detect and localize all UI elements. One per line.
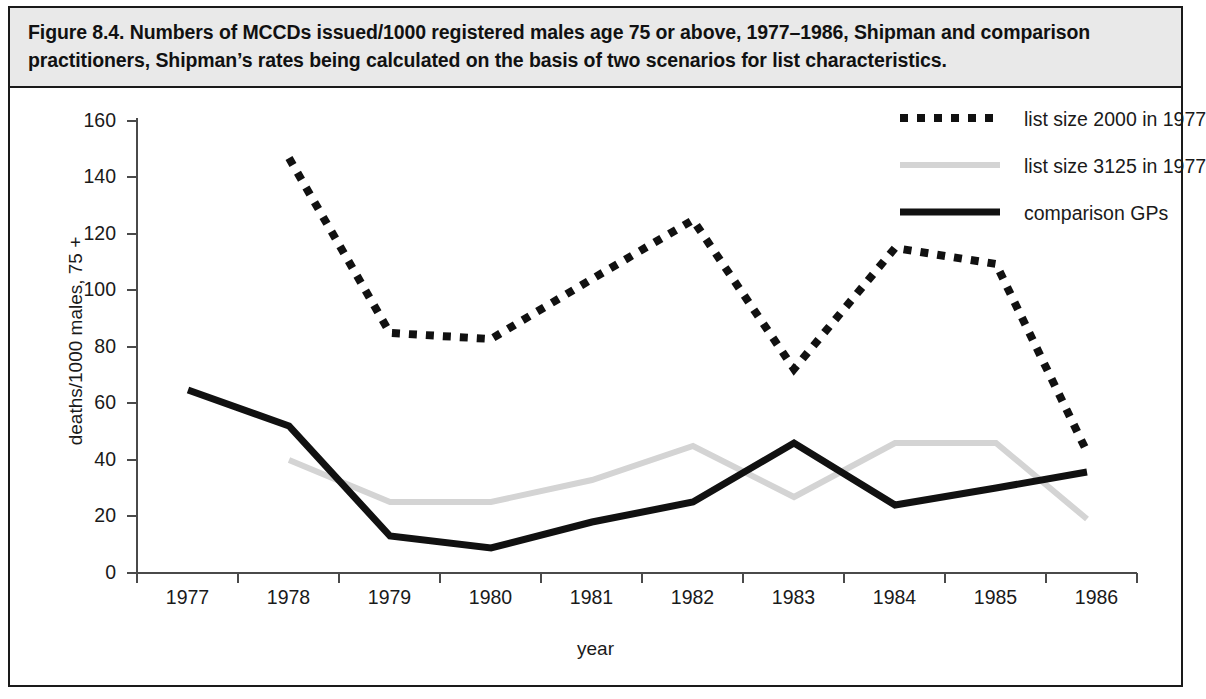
- legend-label-list-size-3125: list size 3125 in 1977: [1024, 155, 1206, 178]
- x-tick-label-1986: 1986: [1046, 586, 1147, 609]
- x-tick-label-1981: 1981: [541, 586, 642, 609]
- x-tick-label-1983: 1983: [743, 586, 844, 609]
- y-tick-label-60: 60: [56, 391, 116, 414]
- y-tick-label-140: 140: [56, 165, 116, 188]
- x-tick-label-1977: 1977: [137, 586, 238, 609]
- y-tick-label-100: 100: [56, 278, 116, 301]
- y-tick-label-80: 80: [56, 335, 116, 358]
- x-tick-label-1980: 1980: [440, 586, 541, 609]
- x-tick-label-1982: 1982: [642, 586, 743, 609]
- figure-border: [8, 6, 1183, 687]
- y-tick-label-0: 0: [56, 561, 116, 584]
- legend-label-comparison-gps: comparison GPs: [1024, 202, 1168, 225]
- x-axis-title: year: [0, 638, 1191, 660]
- y-tick-label-20: 20: [56, 504, 116, 527]
- x-tick-label-1984: 1984: [844, 586, 945, 609]
- x-tick-label-1985: 1985: [945, 586, 1046, 609]
- x-tick-label-1978: 1978: [238, 586, 339, 609]
- legend-label-list-size-2000: list size 2000 in 1977: [1024, 108, 1206, 131]
- y-tick-label-160: 160: [56, 109, 116, 132]
- y-tick-label-40: 40: [56, 448, 116, 471]
- x-tick-label-1979: 1979: [339, 586, 440, 609]
- figure-caption-band: Figure 8.4. Numbers of MCCDs issued/1000…: [10, 8, 1181, 88]
- y-tick-label-120: 120: [56, 222, 116, 245]
- figure-caption: Figure 8.4. Numbers of MCCDs issued/1000…: [28, 18, 1158, 74]
